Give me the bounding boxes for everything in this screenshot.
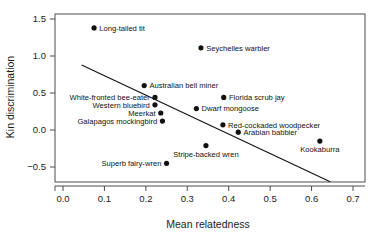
y-tick-label: −0.5 xyxy=(27,161,46,172)
point-label: Galapagos mockingbird xyxy=(77,117,157,126)
data-point: Arabian babbler xyxy=(236,128,298,137)
point-marker xyxy=(198,45,203,50)
x-tick-label: 0.7 xyxy=(346,193,359,204)
data-point: Long-tailed tit xyxy=(91,24,145,33)
point-marker xyxy=(142,83,147,88)
x-tick-label: 0.1 xyxy=(98,193,111,204)
point-marker xyxy=(152,95,157,100)
y-tick-label: 1.0 xyxy=(33,50,46,61)
x-tick-label: 0.2 xyxy=(139,193,152,204)
point-marker xyxy=(317,139,322,144)
kin-discrimination-scatter-chart: 1.51.00.50.0−0.5 0.00.10.20.30.40.50.60.… xyxy=(0,0,383,233)
point-label: Dwarf mongoose xyxy=(202,104,259,113)
y-tick-label: 0.5 xyxy=(33,87,46,98)
point-label: Long-tailed tit xyxy=(99,24,145,33)
y-axis-title: Kin discrimination xyxy=(4,56,16,138)
x-tick-label: 0.0 xyxy=(56,193,69,204)
y-tick-label: 1.5 xyxy=(33,13,46,24)
x-tick-label: 0.6 xyxy=(305,193,318,204)
y-tick-label: 0.0 xyxy=(33,124,46,135)
point-label: Florida scrub jay xyxy=(229,93,285,102)
x-tick-label: 0.4 xyxy=(222,193,235,204)
point-label: Stripe-backed wren xyxy=(173,150,238,159)
data-point: Florida scrub jay xyxy=(221,93,285,102)
point-marker xyxy=(194,106,199,111)
point-marker xyxy=(91,25,96,30)
data-point: Galapagos mockingbird xyxy=(77,117,165,126)
point-marker xyxy=(203,143,208,148)
data-point: Australian bell miner xyxy=(142,81,219,90)
point-label: Seychelles warbler xyxy=(206,44,270,53)
point-marker xyxy=(236,130,241,135)
point-marker xyxy=(221,95,226,100)
point-marker xyxy=(152,102,157,107)
data-point: Seychelles warbler xyxy=(198,44,270,53)
point-marker xyxy=(160,119,165,124)
point-marker xyxy=(164,161,169,166)
point-marker xyxy=(220,122,225,127)
data-point: Superb fairy-wren xyxy=(101,159,169,168)
point-label: Superb fairy-wren xyxy=(101,159,161,168)
x-axis-title: Mean relatedness xyxy=(166,218,249,230)
chart-canvas: 1.51.00.50.0−0.5 0.00.10.20.30.40.50.60.… xyxy=(0,0,383,233)
x-tick-label: 0.5 xyxy=(264,193,277,204)
point-label: Kookaburra xyxy=(300,145,340,154)
point-label: Arabian babbler xyxy=(243,128,297,137)
x-tick-label: 0.3 xyxy=(181,193,194,204)
data-point: Dwarf mongoose xyxy=(194,104,259,113)
point-marker xyxy=(158,110,163,115)
point-label: Australian bell miner xyxy=(149,81,218,90)
